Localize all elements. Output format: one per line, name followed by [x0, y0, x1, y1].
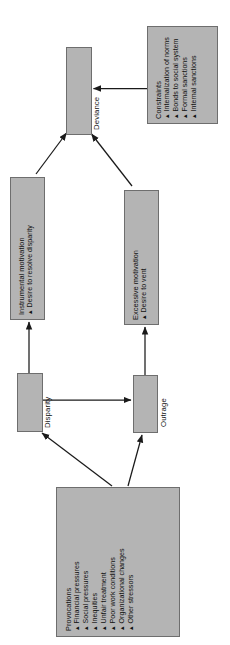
node-provocations-item-1-label: Social pressures	[82, 571, 90, 624]
node-excessive-title: Excessive motivation	[131, 250, 140, 320]
triangle-bullet-icon: ▲	[191, 113, 197, 119]
node-constraints[interactable]: Constraints ▲Internalization of norms ▲B…	[147, 26, 218, 124]
node-constraints-item-0: ▲Internalization of norms	[163, 37, 172, 119]
triangle-bullet-icon: ▲	[173, 113, 179, 119]
node-provocations-item-3-label: Unfair treatment	[100, 572, 108, 623]
triangle-bullet-icon: ▲	[92, 625, 98, 631]
triangle-bullet-icon: ▲	[141, 314, 147, 320]
triangle-bullet-icon: ▲	[110, 625, 116, 631]
node-constraints-item-0-label: Internalization of norms	[163, 37, 171, 111]
node-provocations[interactable]: Provocations ▲Financial pressures ▲Socia…	[56, 487, 180, 637]
node-provocations-item-2-label: Inequities	[91, 593, 99, 624]
node-outrage[interactable]: Outrage	[133, 375, 158, 433]
triangle-bullet-icon: ▲	[182, 113, 188, 119]
node-disparity[interactable]: Disparity	[17, 373, 43, 432]
triangle-bullet-icon: ▲	[128, 625, 134, 631]
node-instrumental-motivation[interactable]: Instrumental motivation ▲Desire to resol…	[10, 177, 45, 320]
node-constraints-item-2-label: Formal sanctions	[181, 57, 189, 111]
edge-instrumental-to-deviance	[36, 133, 67, 174]
triangle-bullet-icon: ▲	[119, 625, 125, 631]
node-excessive-item-0: ▲Desire to vent	[140, 250, 149, 320]
node-instrumental-item-0-label: Desire to resolve disparity	[26, 225, 34, 307]
node-instrumental-item-0: ▲Desire to resolve disparity	[26, 225, 35, 315]
node-deviance-label: Deviance	[92, 97, 101, 130]
edge-provocations-to-disparity	[42, 433, 112, 486]
triangle-bullet-icon: ▲	[164, 113, 170, 119]
node-excessive-item-0-label: Desire to vent	[140, 268, 148, 312]
node-provocations-item-1: ▲Social pressures	[82, 548, 91, 631]
node-constraints-title: Constraints	[154, 37, 163, 119]
node-provocations-item-0-label: Financial pressures	[73, 562, 81, 624]
node-disparity-label: Disparity	[43, 397, 52, 428]
triangle-bullet-icon: ▲	[74, 625, 80, 631]
triangle-bullet-icon: ▲	[27, 309, 33, 315]
edge-excessive-to-deviance	[92, 134, 133, 186]
node-provocations-item-5: ▲Organizational changes	[118, 548, 127, 631]
node-excessive-motivation[interactable]: Excessive motivation ▲Desire to vent	[124, 190, 159, 325]
node-provocations-item-3: ▲Unfair treatment	[100, 548, 109, 631]
node-deviance-text-wrap: Deviance	[85, 97, 103, 130]
node-excessive-text-wrap: Excessive motivation ▲Desire to vent	[131, 250, 149, 320]
node-deviance[interactable]: Deviance	[66, 47, 92, 135]
triangle-bullet-icon: ▲	[101, 625, 107, 631]
node-provocations-item-0: ▲Financial pressures	[73, 548, 82, 631]
node-constraints-item-2: ▲Formal sanctions	[181, 37, 190, 119]
node-outrage-text-wrap: Outrage	[152, 398, 170, 427]
node-disparity-text-wrap: Disparity	[36, 397, 54, 428]
flowchart-diagram: Deviance Constraints ▲Internalization of…	[0, 0, 230, 645]
node-outrage-label: Outrage	[159, 398, 168, 427]
node-constraints-item-1: ▲Bonds to social system	[172, 37, 181, 119]
node-provocations-item-6: ▲Other stressors	[127, 548, 136, 631]
triangle-bullet-icon: ▲	[83, 625, 89, 631]
node-instrumental-title: Instrumental motivation	[17, 225, 26, 315]
node-constraints-item-1-label: Bonds to social system	[172, 38, 180, 111]
node-provocations-item-4-label: Poor work conditions	[109, 557, 117, 623]
node-constraints-item-3: ▲Internal sanctions	[190, 37, 199, 119]
node-constraints-text-wrap: Constraints ▲Internalization of norms ▲B…	[154, 37, 199, 119]
node-constraints-item-3-label: Internal sanctions	[190, 55, 198, 111]
node-provocations-item-6-label: Other stressors	[127, 575, 135, 624]
node-provocations-item-5-label: Organizational changes	[118, 548, 126, 623]
node-provocations-text-wrap: Provocations ▲Financial pressures ▲Socia…	[64, 548, 136, 631]
edge-provocations-to-outrage	[128, 435, 142, 486]
node-provocations-title: Provocations	[64, 548, 73, 631]
node-provocations-item-2: ▲Inequities	[91, 548, 100, 631]
node-instrumental-text-wrap: Instrumental motivation ▲Desire to resol…	[17, 225, 35, 315]
node-provocations-item-4: ▲Poor work conditions	[109, 548, 118, 631]
